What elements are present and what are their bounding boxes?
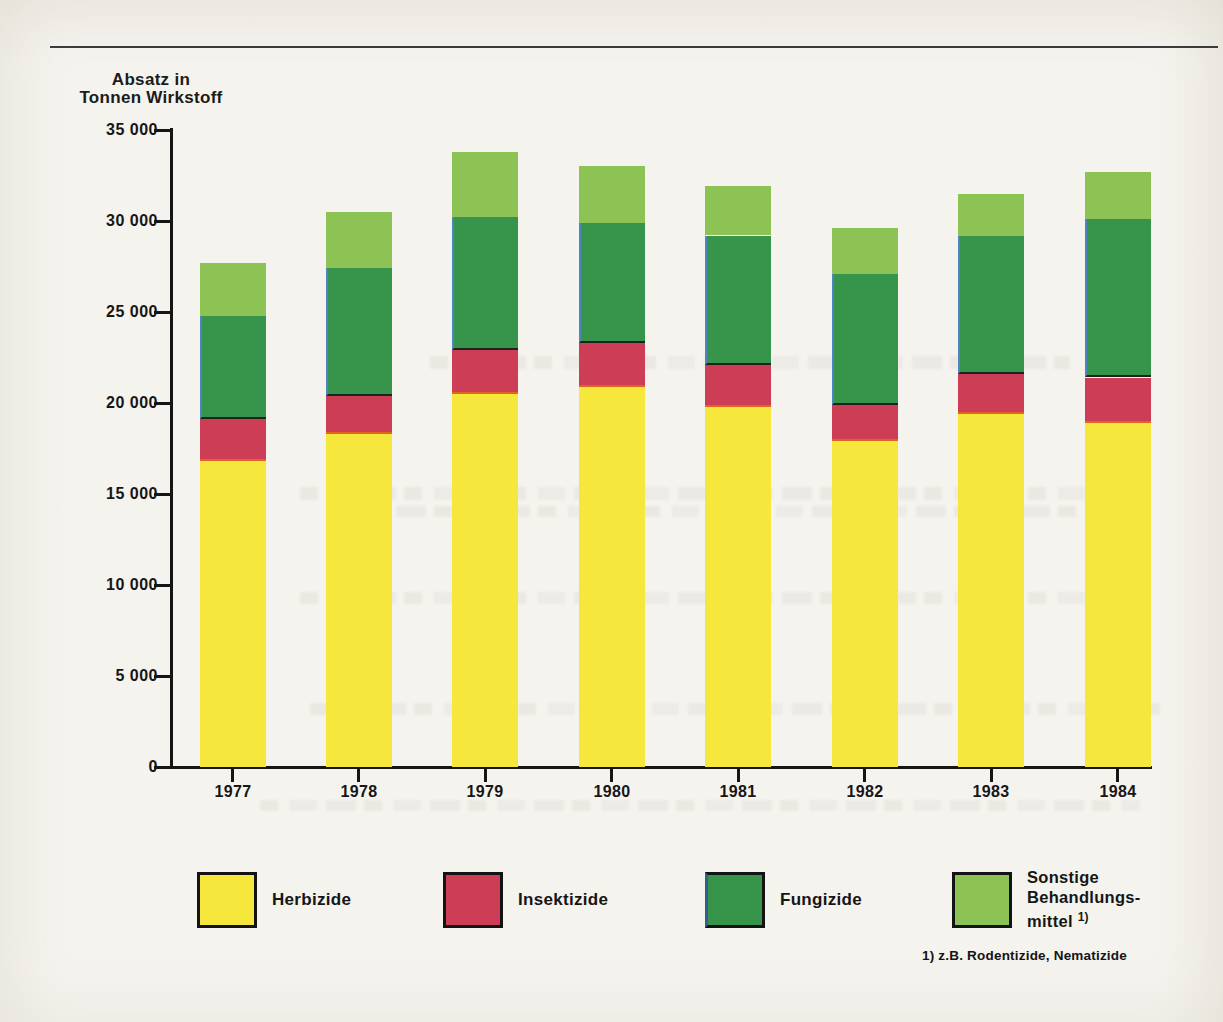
bar-segment-insektizide-1978 (326, 396, 392, 434)
legend-label-fungizide: Fungizide (780, 872, 862, 928)
y-axis-tick-label: 30 000 (58, 212, 158, 230)
x-axis-year-label: 1984 (1073, 783, 1163, 801)
bar-segment-insektizide-1979 (452, 350, 518, 394)
legend-label-sonstige-line3: mittel 1) (1027, 907, 1141, 931)
bar-segment-sonstige-1981 (705, 186, 771, 235)
bar-segment-insektizide-1982 (832, 405, 898, 441)
bar-segment-fungizide-1984 (1085, 219, 1151, 377)
bar-segment-herbizide-1977 (200, 461, 266, 767)
legend-label-sonstige-line1: Sonstige (1027, 867, 1141, 887)
x-axis-tick (484, 769, 487, 782)
x-axis-tick (231, 769, 234, 782)
bar-segment-fungizide-1983 (958, 236, 1024, 374)
x-axis-year-label: 1977 (188, 783, 278, 801)
legend-label-insektizide: Insektizide (518, 872, 608, 928)
y-axis-tick-label: 15 000 (58, 485, 158, 503)
bar-segment-insektizide-1981 (705, 365, 771, 407)
x-axis-year-label: 1979 (440, 783, 530, 801)
bar-segment-insektizide-1983 (958, 374, 1024, 414)
bar-segment-herbizide-1981 (705, 407, 771, 767)
bar-segment-herbizide-1979 (452, 394, 518, 767)
legend-label-sonstige-line2: Behandlungs- (1027, 887, 1141, 907)
x-axis-tick (1116, 769, 1119, 782)
bar-segment-herbizide-1978 (326, 434, 392, 767)
bar-segment-herbizide-1980 (579, 387, 645, 767)
scanned-document-page: Absatz in Tonnen Wirkstoff 05 00010 0001… (0, 0, 1223, 1022)
bar-segment-herbizide-1982 (832, 441, 898, 767)
x-axis-year-label: 1978 (314, 783, 404, 801)
bar-segment-sonstige-1984 (1085, 172, 1151, 219)
y-axis-tick-label: 0 (58, 758, 158, 776)
x-axis-year-label: 1981 (693, 783, 783, 801)
legend-swatch-sonstige (952, 872, 1012, 928)
y-axis-line (170, 128, 173, 769)
bar-segment-fungizide-1978 (326, 268, 392, 395)
x-axis-year-label: 1982 (820, 783, 910, 801)
bar-segment-sonstige-1977 (200, 263, 266, 316)
bar-segment-sonstige-1982 (832, 228, 898, 274)
bar-segment-herbizide-1984 (1085, 423, 1151, 767)
footnote-marker: 1) (1078, 910, 1089, 924)
legend-swatch-herbizide (197, 872, 257, 928)
bar-segment-fungizide-1977 (200, 316, 266, 420)
bar-segment-fungizide-1980 (579, 223, 645, 343)
bar-segment-insektizide-1980 (579, 343, 645, 387)
y-axis-tick-label: 20 000 (58, 394, 158, 412)
x-axis-tick (357, 769, 360, 782)
legend-label-sonstige: Sonstige Behandlungs- mittel 1) (1027, 867, 1141, 931)
bar-segment-sonstige-1978 (326, 212, 392, 268)
legend-swatch-fungizide (705, 872, 765, 928)
x-axis-tick (863, 769, 866, 782)
bar-segment-insektizide-1977 (200, 419, 266, 461)
bar-segment-sonstige-1979 (452, 152, 518, 218)
x-axis-year-label: 1980 (567, 783, 657, 801)
bar-segment-sonstige-1983 (958, 194, 1024, 236)
y-axis-tick-label: 5 000 (58, 667, 158, 685)
x-axis-tick (610, 769, 613, 782)
y-axis-tick-label: 35 000 (58, 121, 158, 139)
bar-segment-fungizide-1981 (705, 236, 771, 365)
x-axis-year-label: 1983 (946, 783, 1036, 801)
bar-segment-insektizide-1984 (1085, 378, 1151, 424)
bar-segment-fungizide-1982 (832, 274, 898, 405)
chart-footnote: 1) z.B. Rodentizide, Nematizide (922, 948, 1222, 963)
x-axis-tick (737, 769, 740, 782)
y-axis-tick-label: 10 000 (58, 576, 158, 594)
bar-segment-fungizide-1979 (452, 217, 518, 350)
bar-segment-herbizide-1983 (958, 414, 1024, 767)
y-axis-tick-label: 25 000 (58, 303, 158, 321)
legend-label-herbizide: Herbizide (272, 872, 351, 928)
legend-swatch-insektizide (443, 872, 503, 928)
x-axis-tick (990, 769, 993, 782)
bar-segment-sonstige-1980 (579, 166, 645, 222)
